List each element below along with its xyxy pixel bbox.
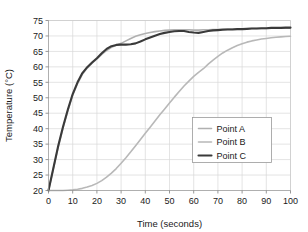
line-chart: 2025303540455055606570750102030405060708… (0, 0, 308, 232)
y-tick-label: 35 (33, 139, 43, 149)
x-axis-ticks: 0102030405060708090100 (46, 191, 298, 206)
x-tick-label: 60 (189, 196, 199, 206)
x-tick-label: 90 (261, 196, 271, 206)
chart-figure: 2025303540455055606570750102030405060708… (0, 0, 308, 232)
x-tick-label: 50 (164, 196, 174, 206)
y-tick-label: 40 (33, 124, 43, 134)
y-axis-title: Temperature (°C) (3, 69, 14, 142)
y-tick-label: 50 (33, 93, 43, 103)
x-tick-label: 10 (68, 196, 78, 206)
legend: Point APoint BPoint C (193, 118, 272, 163)
x-tick-label: 30 (116, 196, 126, 206)
y-tick-label: 75 (33, 16, 43, 26)
x-tick-label: 20 (92, 196, 102, 206)
y-tick-label: 45 (33, 108, 43, 118)
y-tick-label: 20 (33, 186, 43, 196)
y-tick-label: 70 (33, 31, 43, 41)
x-tick-label: 0 (46, 196, 51, 206)
x-axis-title: Time (seconds) (137, 218, 202, 229)
legend-label-point-c: Point C (217, 151, 247, 161)
x-tick-label: 80 (237, 196, 247, 206)
x-tick-label: 70 (213, 196, 223, 206)
x-tick-label: 40 (140, 196, 150, 206)
legend-label-point-b: Point B (217, 137, 246, 147)
y-tick-label: 55 (33, 78, 43, 88)
y-tick-label: 65 (33, 47, 43, 57)
y-tick-label: 60 (33, 62, 43, 72)
y-tick-label: 25 (33, 170, 43, 180)
legend-label-point-a: Point A (217, 124, 246, 134)
y-axis-ticks: 202530354045505560657075 (33, 16, 49, 196)
y-tick-label: 30 (33, 155, 43, 165)
x-tick-label: 100 (283, 196, 298, 206)
